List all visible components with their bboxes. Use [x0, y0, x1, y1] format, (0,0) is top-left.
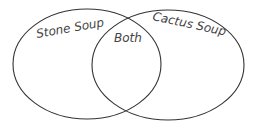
venn-diagram: Stone Soup Cactus Soup Both	[0, 0, 255, 130]
stone-soup-label: Stone Soup	[35, 15, 105, 41]
both-label: Both	[114, 31, 142, 45]
cactus-soup-label: Cactus Soup	[151, 9, 228, 38]
